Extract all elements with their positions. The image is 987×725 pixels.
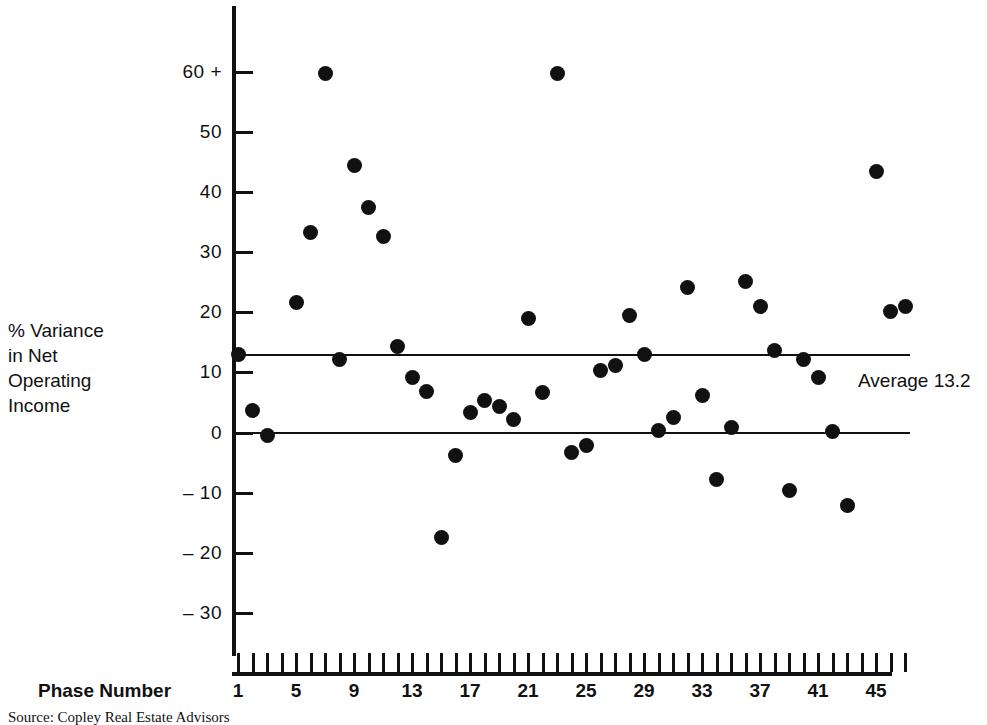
data-point (521, 311, 536, 326)
x-tick-label-25: 25 (569, 681, 603, 700)
x-tick-37 (759, 653, 762, 672)
data-point (593, 363, 608, 378)
x-tick-label-17: 17 (453, 681, 487, 700)
y-axis-title: % Variancein NetOperatingIncome (8, 318, 168, 418)
data-point (419, 384, 434, 399)
x-tick-10 (368, 653, 371, 672)
x-tick-14 (426, 653, 429, 672)
x-tick-2 (252, 653, 255, 672)
x-tick-12 (397, 653, 400, 672)
data-point (390, 339, 405, 354)
x-tick-43 (846, 653, 849, 672)
x-tick-19 (498, 653, 501, 672)
x-tick-34 (716, 653, 719, 672)
data-point (535, 385, 550, 400)
data-point (289, 295, 304, 310)
x-tick-5 (295, 653, 298, 672)
x-tick-26 (600, 653, 603, 672)
x-tick-1 (237, 653, 240, 672)
x-tick-39 (788, 653, 791, 672)
y-tick-60 (236, 71, 253, 74)
x-tick-6 (310, 653, 313, 672)
data-point (231, 347, 246, 362)
x-tick-38 (774, 653, 777, 672)
x-tick-7 (324, 653, 327, 672)
y-tick-label--10: – 10 (150, 483, 222, 502)
x-tick-33 (701, 653, 704, 672)
x-tick-label-37: 37 (743, 681, 777, 700)
data-point (434, 530, 449, 545)
x-tick-label-9: 9 (337, 681, 371, 700)
data-point (245, 403, 260, 418)
y-tick--30 (236, 612, 253, 615)
data-point (753, 299, 768, 314)
data-point (303, 225, 318, 240)
data-point (651, 423, 666, 438)
x-tick-23 (556, 653, 559, 672)
x-tick-9 (353, 653, 356, 672)
x-tick-label-45: 45 (859, 681, 893, 700)
x-tick-label-29: 29 (627, 681, 661, 700)
data-point (709, 472, 724, 487)
data-point (477, 393, 492, 408)
y-tick-label--20: – 20 (150, 543, 222, 562)
scatter-chart: 60 +50403020100– 10– 20– 30 159131721252… (0, 0, 987, 725)
y-tick-label--30: – 30 (150, 603, 222, 622)
data-point (680, 280, 695, 295)
x-tick-3 (266, 653, 269, 672)
data-point (347, 158, 362, 173)
data-point (579, 438, 594, 453)
x-tick-label-41: 41 (801, 681, 835, 700)
x-tick-label-33: 33 (685, 681, 719, 700)
x-tick-24 (571, 653, 574, 672)
data-point (724, 420, 739, 435)
x-tick-4 (281, 653, 284, 672)
y-tick-label-50: 50 (150, 122, 222, 141)
data-point (782, 483, 797, 498)
x-tick-41 (817, 653, 820, 672)
x-tick-22 (542, 653, 545, 672)
x-tick-47 (904, 653, 907, 672)
zero-reference-line (232, 432, 910, 434)
y-tick-30 (236, 251, 253, 254)
data-point (767, 343, 782, 358)
x-tick-17 (469, 653, 472, 672)
y-tick-10 (236, 371, 253, 374)
x-axis-line (232, 672, 892, 676)
x-tick-30 (658, 653, 661, 672)
data-point (637, 347, 652, 362)
y-axis-title-line-0: % Variance (8, 318, 168, 343)
data-point (405, 370, 420, 385)
x-tick-11 (382, 653, 385, 672)
x-tick-25 (585, 653, 588, 672)
x-tick-label-5: 5 (279, 681, 313, 700)
y-axis-title-line-1: in Net (8, 343, 168, 368)
data-point (796, 352, 811, 367)
y-tick-40 (236, 191, 253, 194)
x-tick-32 (687, 653, 690, 672)
y-tick--20 (236, 552, 253, 555)
x-tick-31 (672, 653, 675, 672)
x-tick-45 (875, 653, 878, 672)
x-tick-46 (890, 653, 893, 672)
x-tick-27 (614, 653, 617, 672)
data-point (869, 164, 884, 179)
x-tick-44 (861, 653, 864, 672)
data-point (811, 370, 826, 385)
y-axis-title-line-2: Operating (8, 368, 168, 393)
source-note: Source: Copley Real Estate Advisors (8, 709, 230, 725)
x-tick-label-1: 1 (221, 681, 255, 700)
data-point (550, 66, 565, 81)
data-point (608, 358, 623, 373)
y-axis-title-line-3: Income (8, 393, 168, 418)
x-tick-29 (643, 653, 646, 672)
y-tick-label-60: 60 + (150, 62, 222, 81)
y-axis-line (232, 6, 236, 656)
data-point (738, 274, 753, 289)
data-point (332, 352, 347, 367)
data-point (376, 229, 391, 244)
average-line-label: Average 13.2 (858, 370, 971, 391)
data-point (666, 410, 681, 425)
x-tick-21 (527, 653, 530, 672)
x-tick-35 (730, 653, 733, 672)
